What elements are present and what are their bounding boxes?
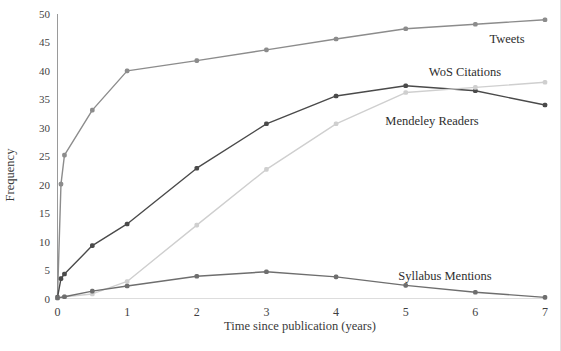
data-point-marker bbox=[125, 69, 130, 74]
data-point-marker bbox=[125, 222, 130, 227]
y-tick-label: 35 bbox=[39, 93, 51, 105]
data-point-marker bbox=[194, 58, 199, 63]
data-point-marker bbox=[59, 182, 64, 187]
data-point-marker bbox=[90, 243, 95, 248]
data-point-marker bbox=[59, 276, 64, 281]
series-label-group: TweetsWoS CitationsMendeley ReadersSylla… bbox=[385, 32, 524, 283]
data-point-marker bbox=[264, 167, 269, 172]
y-tick-label-group: 05101520253035404550 bbox=[39, 8, 51, 305]
data-point-marker bbox=[543, 17, 548, 22]
y-tick-label: 10 bbox=[39, 236, 51, 248]
data-point-marker bbox=[473, 22, 478, 27]
x-tick-label: 7 bbox=[542, 305, 548, 319]
data-point-marker bbox=[334, 94, 339, 99]
data-point-marker bbox=[334, 122, 339, 127]
data-point-marker bbox=[543, 103, 548, 108]
x-tick-label: 6 bbox=[472, 305, 478, 319]
data-point-marker bbox=[194, 166, 199, 171]
y-tick-label: 40 bbox=[39, 65, 51, 77]
data-point-marker bbox=[90, 289, 95, 294]
y-tick-label: 50 bbox=[39, 8, 51, 20]
series-label: Tweets bbox=[489, 32, 524, 46]
data-point-marker bbox=[55, 296, 60, 301]
data-point-marker bbox=[125, 284, 130, 289]
series-label: WoS Citations bbox=[429, 65, 501, 79]
data-point-marker bbox=[334, 37, 339, 42]
x-tick-label: 3 bbox=[263, 305, 269, 319]
data-point-marker bbox=[264, 48, 269, 53]
data-point-marker bbox=[90, 108, 95, 113]
data-point-marker bbox=[403, 283, 408, 288]
series-line bbox=[58, 20, 546, 298]
data-point-marker bbox=[194, 223, 199, 228]
data-point-marker bbox=[264, 122, 269, 127]
x-tick-label: 0 bbox=[55, 305, 61, 319]
data-point-marker bbox=[473, 85, 478, 90]
y-tick-label: 0 bbox=[45, 293, 51, 305]
data-point-marker bbox=[403, 83, 408, 88]
data-point-marker bbox=[62, 272, 67, 277]
series-label: Syllabus Mentions bbox=[398, 269, 492, 283]
y-tick-label: 25 bbox=[39, 150, 51, 162]
x-tick-label-group: 01234567 bbox=[55, 305, 549, 319]
data-point-marker bbox=[62, 294, 67, 299]
y-tick-label: 20 bbox=[39, 179, 51, 191]
x-tick-label: 2 bbox=[194, 305, 200, 319]
line-chart: 05101520253035404550 01234567 TweetsWoS … bbox=[0, 0, 561, 351]
data-point-marker bbox=[334, 275, 339, 280]
chart-figure: 05101520253035404550 01234567 TweetsWoS … bbox=[0, 0, 561, 351]
series-label: Mendeley Readers bbox=[385, 114, 479, 128]
x-tick-label: 5 bbox=[403, 305, 409, 319]
data-point-marker bbox=[543, 295, 548, 300]
data-point-marker bbox=[473, 290, 478, 295]
series-group bbox=[55, 17, 547, 300]
y-tick-label: 15 bbox=[39, 207, 51, 219]
data-point-marker bbox=[543, 80, 548, 85]
data-point-marker bbox=[194, 274, 199, 279]
x-tick-label: 1 bbox=[124, 305, 130, 319]
x-tick-label: 4 bbox=[333, 305, 339, 319]
y-tick-label: 45 bbox=[39, 36, 51, 48]
y-tick-label: 30 bbox=[39, 122, 51, 134]
x-axis-title: Time since publication (years) bbox=[224, 319, 376, 333]
data-point-marker bbox=[264, 269, 269, 274]
data-point-marker bbox=[62, 153, 67, 158]
data-point-marker bbox=[403, 26, 408, 31]
y-tick-label: 5 bbox=[45, 264, 51, 276]
y-axis-title: Frequency bbox=[3, 148, 17, 202]
data-point-marker bbox=[403, 90, 408, 95]
data-point-marker bbox=[125, 279, 130, 284]
